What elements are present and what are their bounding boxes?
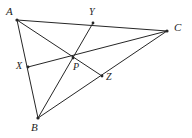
cevian-by xyxy=(38,23,93,118)
point-label-y: Y xyxy=(89,7,95,17)
point-label-p: P xyxy=(73,62,79,72)
vertex-dot-a xyxy=(15,18,18,21)
vertex-dot-x xyxy=(27,66,30,69)
vertex-dot-c xyxy=(165,29,168,32)
cevian-az xyxy=(17,20,102,76)
vertex-dot-p xyxy=(72,57,75,60)
point-label-x: X xyxy=(16,61,22,71)
vertex-dot-z xyxy=(101,75,104,78)
vertex-dot-b xyxy=(36,116,39,119)
cevian-cx xyxy=(28,31,167,67)
vertex-label-c: C xyxy=(174,22,181,33)
vertex-dot-y xyxy=(92,22,95,25)
triangle-cevians-figure xyxy=(0,0,192,138)
segments-group xyxy=(17,20,167,118)
geometry-diagram-canvas: A B C P X Y Z xyxy=(0,0,192,138)
side-bc xyxy=(38,31,167,118)
vertex-label-b: B xyxy=(31,122,38,133)
vertex-label-a: A xyxy=(6,6,13,17)
point-label-z: Z xyxy=(106,72,112,82)
